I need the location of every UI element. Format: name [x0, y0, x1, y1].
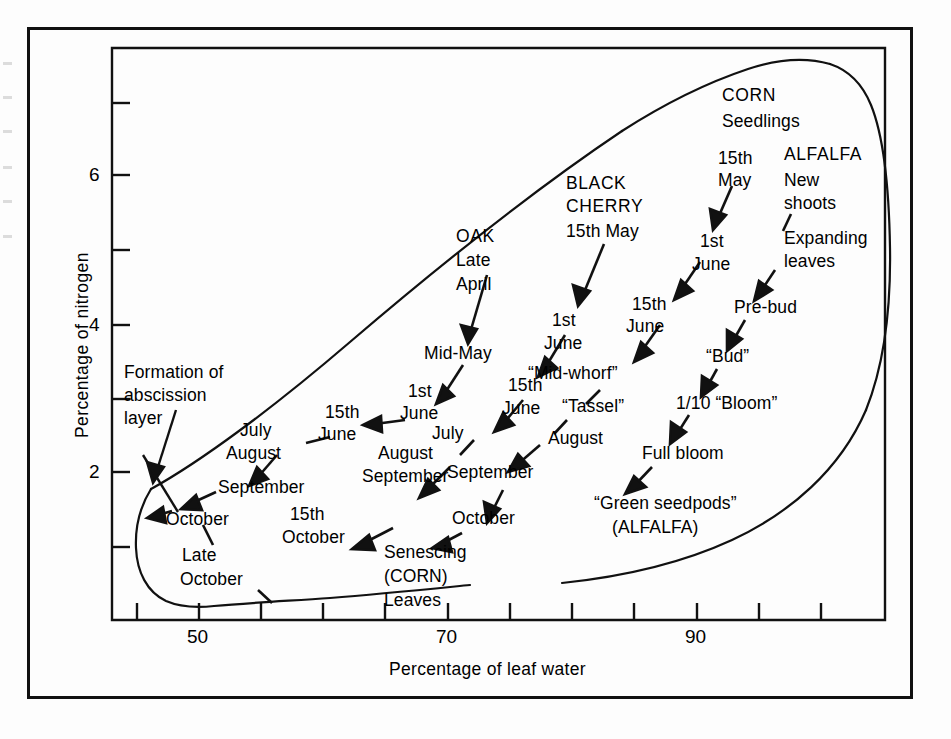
x-axis-title: Percentage of leaf water: [389, 659, 586, 680]
black-cherry-june-15: June: [502, 398, 540, 419]
arrow-oak-9: [258, 590, 272, 603]
y-tick-label-4: 4: [89, 314, 100, 336]
x-tick-label-90: 90: [685, 626, 706, 648]
corn-leaves: Leaves: [384, 590, 441, 611]
oak-stage-late: Late: [456, 250, 490, 271]
black-cherry-title-1: BLACK: [566, 173, 626, 194]
alfalfa-green-seedpods: “Green seedpods”: [594, 493, 737, 514]
black-cherry-june: June: [544, 333, 582, 354]
corn-may15-a: 15th: [718, 148, 752, 169]
corn-senescing: Senescing: [384, 542, 467, 563]
black-cherry-1st: 1st: [552, 310, 576, 331]
corn-september: September: [447, 462, 534, 483]
alfalfa-new: New: [784, 170, 819, 191]
oak-stage-august: August: [226, 443, 281, 464]
corn-tassel: “Tassel”: [562, 396, 624, 417]
alfalfa-paren: (ALFALFA): [612, 517, 699, 538]
alfalfa-bloom-tenth: 1/10 “Bloom”: [676, 393, 777, 414]
alfalfa-pre-bud: Pre-bud: [734, 297, 797, 318]
alfalfa-leaves: leaves: [784, 251, 835, 272]
corn-june1-a: 1st: [700, 231, 724, 252]
alfalfa-bud: “Bud”: [706, 346, 749, 367]
plot-frame: [112, 48, 885, 620]
corn-may15-b: May: [718, 170, 751, 191]
figure-root: Percentage of nitrogen Percentage of lea…: [0, 0, 951, 739]
alfalfa-title: ALFALFA: [784, 144, 862, 165]
abscission-note-line2: abscission: [124, 385, 207, 406]
corn-june1-b: June: [692, 254, 730, 275]
oak-stage-june-15: June: [318, 424, 356, 445]
x-tick-label-70: 70: [436, 626, 457, 648]
black-cherry-15th-oct-2: October: [282, 527, 345, 548]
oak-stage-september: September: [218, 477, 305, 498]
alfalfa-shoots: shoots: [784, 193, 836, 214]
y-tick-label-2: 2: [89, 461, 100, 483]
corn-mid-whorf: “Mid-whorf”: [528, 363, 618, 384]
oak-stage-15th: 15th: [325, 402, 359, 423]
oak-stage-late-2: Late: [182, 545, 216, 566]
oak-stage-april: April: [456, 274, 492, 295]
y-axis-ticks: [112, 103, 130, 547]
abscission-note-line3: layer: [124, 408, 162, 429]
alfalfa-full-bloom: Full bloom: [642, 443, 724, 464]
corn-title: CORN: [722, 85, 776, 106]
oak-stage-june: June: [400, 403, 438, 424]
x-axis-ticks: [137, 603, 821, 620]
x-tick-label-50: 50: [187, 626, 208, 648]
black-cherry-15th-oct-1: 15th: [290, 504, 324, 525]
y-axis-title: Percentage of nitrogen: [72, 252, 93, 438]
corn-june15-a: 15th: [632, 294, 666, 315]
oak-title: OAK: [456, 226, 495, 247]
alfalfa-expanding: Expanding: [784, 228, 868, 249]
corn-october: October: [452, 508, 515, 529]
corn-paren: (CORN): [384, 566, 448, 587]
oak-stage-1st: 1st: [408, 381, 432, 402]
abscission-note-line1: Formation of: [124, 362, 223, 383]
black-cherry-july: July: [432, 423, 464, 444]
black-cherry-september: September: [362, 466, 449, 487]
arrow-bc-1: [583, 244, 604, 295]
corn-june15-b: June: [626, 316, 664, 337]
oak-stage-mid-may: Mid-May: [424, 343, 492, 364]
corn-subtitle: Seedlings: [722, 111, 800, 132]
black-cherry-august: August: [378, 443, 433, 464]
black-cherry-title-2: CHERRY: [566, 196, 643, 217]
black-cherry-may15: 15th May: [566, 221, 639, 242]
corn-august: August: [548, 428, 603, 449]
oak-stage-late-october: October: [180, 569, 243, 590]
oak-stage-october: October: [166, 509, 229, 530]
y-tick-label-6: 6: [89, 164, 100, 186]
oak-stage-july: July: [240, 420, 272, 441]
